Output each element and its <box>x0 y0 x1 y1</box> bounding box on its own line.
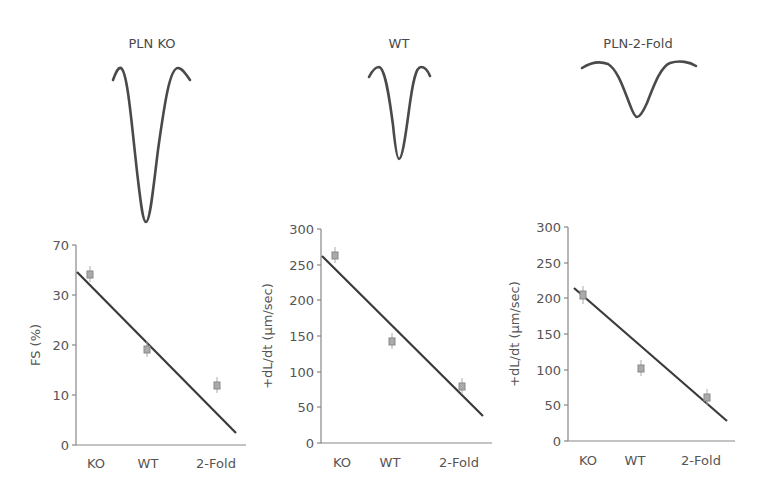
y-tick-label: 10 <box>52 388 69 403</box>
x-label-wt: WT <box>380 455 401 470</box>
y-tick-label: 50 <box>544 398 561 413</box>
x-label-wt: WT <box>625 453 646 468</box>
y-tick-label: 250 <box>289 258 314 273</box>
contraction-trace <box>582 62 696 117</box>
y-tick-label: 0 <box>306 436 314 451</box>
y-axis-label: +dL/dt (μm/sec) <box>260 283 275 389</box>
y-tick-label: 200 <box>536 291 561 306</box>
x-label-ko: KO <box>579 453 597 468</box>
y-tick-label: 250 <box>536 256 561 271</box>
y-tick-label: 100 <box>289 365 314 380</box>
y-tick-label: 200 <box>289 293 314 308</box>
x-label-wt: WT <box>138 456 159 471</box>
x-label-2fold: 2-Fold <box>196 456 236 471</box>
y-tick-label: 300 <box>289 222 314 237</box>
y-tick-label: 70 <box>52 238 69 253</box>
panel-pln-2-fold: PLN-2-Fold 300 250 200 150 100 50 0 +dL/… <box>507 36 735 468</box>
y-axis-label: FS (%) <box>28 324 43 366</box>
panel-title: WT <box>389 36 410 51</box>
y-ticks: 70 30 20 10 0 <box>52 238 76 453</box>
y-tick-label: 100 <box>536 363 561 378</box>
y-ticks: 300 250 200 150 100 50 0 <box>536 220 568 449</box>
y-tick-label: 300 <box>536 220 561 235</box>
x-category-labels: KO WT 2-Fold <box>333 455 479 470</box>
panel-title: PLN-2-Fold <box>603 36 672 51</box>
axes <box>76 245 246 445</box>
y-tick-label: 20 <box>52 338 69 353</box>
y-axis-label: +dL/dt (μm/sec) <box>507 281 522 387</box>
panel-title: PLN KO <box>129 36 176 51</box>
axes <box>568 227 735 441</box>
y-tick-label: 0 <box>61 438 69 453</box>
x-category-labels: KO WT 2-Fold <box>579 453 721 468</box>
y-tick-label: 0 <box>553 434 561 449</box>
x-label-ko: KO <box>333 455 351 470</box>
regression-line <box>322 256 483 416</box>
axes <box>321 229 492 443</box>
data-points <box>580 286 710 405</box>
panel-pln-ko: PLN KO 70 30 20 10 0 FS (%) KO WT 2-Fold <box>28 36 246 471</box>
data-points <box>87 266 220 393</box>
y-ticks: 300 250 200 150 100 50 0 <box>289 222 321 451</box>
panel-wt: WT 300 250 200 150 100 50 0 +dL/dt (μm/s… <box>260 36 492 470</box>
y-tick-label: 150 <box>289 329 314 344</box>
y-tick-label: 30 <box>52 288 69 303</box>
figure: PLN KO 70 30 20 10 0 FS (%) KO WT 2-Fold <box>0 0 759 500</box>
x-label-ko: KO <box>87 456 105 471</box>
data-points <box>332 247 465 394</box>
x-category-labels: KO WT 2-Fold <box>87 456 236 471</box>
contraction-trace <box>369 67 430 159</box>
regression-line <box>77 272 236 433</box>
x-label-2fold: 2-Fold <box>439 455 479 470</box>
contraction-trace <box>113 68 190 222</box>
x-label-2fold: 2-Fold <box>681 453 721 468</box>
y-tick-label: 50 <box>297 400 314 415</box>
y-tick-label: 150 <box>536 327 561 342</box>
